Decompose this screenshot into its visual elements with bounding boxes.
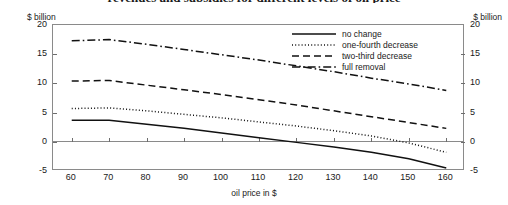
legend-item-two-third-decrease: two-third decrease [292,50,418,61]
legend-swatch [292,29,336,39]
x-tick-label: 60 [56,173,86,182]
x-tick-label: 150 [393,173,423,182]
legend-label: no change [342,29,382,39]
legend-item-one-fourth-decrease: one-fourth decrease [292,39,418,50]
legend-label: two-third decrease [342,51,412,61]
y-tick-label-right: 15 [470,49,492,58]
x-tick-label: 80 [131,173,161,182]
chart-container: revenues and subsidies for different lev… [0,0,508,205]
chart-legend: no changeone-fourth decreasetwo-third de… [292,28,418,72]
x-tick-label: 160 [430,173,460,182]
legend-swatch [292,40,336,50]
x-tick-label: 100 [206,173,236,182]
y-tick-label-left: 20 [25,20,47,29]
legend-label: one-fourth decrease [342,40,418,50]
y-tick-label-right: 0 [470,137,492,146]
y-tick-label-left: 5 [25,108,47,117]
x-tick-label: 90 [168,173,198,182]
legend-item-full-removal: full removal [292,61,418,72]
y-tick-label-right: 5 [470,108,492,117]
x-tick-label: 110 [243,173,273,182]
y-tick-label-left: 10 [25,78,47,87]
x-tick-label: 70 [93,173,123,182]
series-line-one-fourth-decrease [72,108,447,152]
y-tick-label-right: 10 [470,78,492,87]
chart-title: revenues and subsidies for different lev… [0,0,508,3]
series-line-two-third-decrease [72,80,447,128]
y-tick-label-left: 0 [25,137,47,146]
legend-swatch [292,62,336,72]
legend-item-no-change: no change [292,28,418,39]
y-tick-label-left: -5 [25,166,47,175]
legend-label: full removal [342,62,385,72]
series-line-no-change [72,120,447,168]
y-tick-label-right: 20 [470,20,492,29]
legend-swatch [292,51,336,61]
x-tick-label: 130 [318,173,348,182]
y-tick-label-right: -5 [470,166,492,175]
x-tick-label: 120 [280,173,310,182]
x-tick-label: 140 [355,173,385,182]
y-tick-label-left: 15 [25,49,47,58]
x-axis-title: oil price in $ [0,188,508,198]
